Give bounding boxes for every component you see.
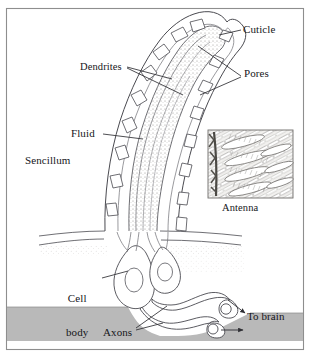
label-cell-body: Cell body: [66, 271, 88, 357]
diagram-canvas: [0, 0, 311, 357]
label-cell-body-line2: body: [66, 327, 88, 338]
antenna-inset: [208, 130, 294, 199]
nucleus-right: [158, 263, 173, 281]
label-axons: Axons: [103, 327, 132, 338]
label-fluid: Fluid: [71, 128, 95, 139]
label-to-brain: To brain: [247, 311, 285, 322]
label-sencillum: Sencillum: [25, 155, 71, 166]
sensillum-figure: Cuticle Dendrites Pores Fluid Sencillum …: [0, 0, 311, 357]
axon-cross-section-lower: [208, 324, 218, 334]
label-cuticle: Cuticle: [243, 24, 275, 35]
label-cell-body-line1: Cell: [66, 293, 88, 304]
nucleus-left: [125, 268, 143, 292]
axon-cross-section-upper: [221, 304, 231, 314]
label-pores: Pores: [244, 68, 269, 79]
label-dendrites: Dendrites: [80, 62, 122, 73]
label-antenna: Antenna: [222, 203, 258, 214]
